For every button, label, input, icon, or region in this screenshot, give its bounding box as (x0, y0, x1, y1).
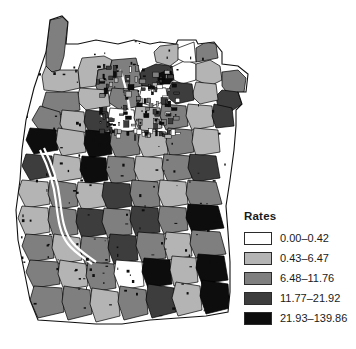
map-speck (94, 239, 96, 240)
map-region (142, 258, 172, 288)
map-speck (83, 278, 85, 279)
map-speck (140, 122, 142, 124)
legend-label: 21.93–139.86 (280, 312, 347, 325)
map-speck (47, 189, 48, 192)
map-speck (79, 278, 81, 280)
map-subregion (157, 101, 159, 106)
map-region (212, 104, 234, 128)
map-region (58, 260, 88, 290)
map-subregion (110, 124, 113, 126)
map-speck (60, 147, 63, 148)
map-speck (161, 133, 163, 134)
map-speck (56, 268, 58, 270)
legend-swatch (244, 312, 272, 325)
map-subregion (96, 80, 99, 84)
map-region (154, 44, 178, 66)
map-speck (23, 262, 25, 263)
map-speck (177, 69, 179, 71)
map-speck (202, 283, 204, 285)
map-speck (135, 41, 137, 42)
map-subregion (113, 65, 116, 71)
map-speck (121, 107, 122, 108)
map-speck (189, 255, 190, 257)
map-speck (73, 190, 76, 192)
map-subregion (157, 85, 163, 89)
map-subregion (119, 114, 123, 116)
map-speck (48, 256, 49, 258)
map-speck (181, 283, 184, 284)
map-speck (47, 245, 49, 247)
map-speck (117, 247, 119, 249)
map-subregion (123, 112, 127, 115)
map-speck (167, 57, 168, 59)
map-subregion (155, 119, 157, 121)
map-subregion (132, 124, 136, 126)
map-speck (105, 240, 106, 241)
map-speck (129, 82, 130, 84)
map-speck (53, 72, 56, 75)
map-speck (117, 71, 119, 73)
map-region (42, 66, 80, 92)
map-speck (69, 202, 70, 203)
map-subregion (126, 116, 132, 120)
map-subregion (172, 108, 178, 111)
map-subregion (134, 135, 136, 141)
map-subregion (160, 122, 164, 124)
legend-label: 0.43–6.47 (280, 252, 329, 265)
map-speck (113, 124, 116, 126)
map-speck (218, 214, 220, 216)
map-speck (117, 254, 118, 257)
map-speck (156, 169, 159, 171)
map-speck (109, 304, 112, 305)
map-subregion (167, 89, 171, 92)
map-region (130, 206, 160, 236)
map-region (134, 156, 164, 184)
map-speck (142, 262, 144, 263)
map-subregion (153, 109, 156, 114)
map-speck (209, 261, 210, 264)
map-speck (133, 64, 136, 66)
map-region (86, 262, 116, 292)
map-speck (174, 223, 177, 224)
map-speck (75, 70, 77, 73)
map-subregion (129, 67, 131, 73)
map-speck (168, 114, 171, 116)
map-speck (145, 205, 146, 208)
map-subregion (102, 108, 107, 112)
map-speck (131, 62, 133, 65)
map-subregion (170, 71, 172, 73)
map-speck (214, 221, 217, 222)
map-region (172, 282, 202, 316)
map-speck (76, 243, 78, 245)
map-speck (84, 167, 85, 169)
map-speck (106, 266, 109, 267)
map-subregion (118, 122, 120, 125)
map-speck (22, 219, 25, 222)
map-subregion (126, 78, 129, 80)
map-region (170, 256, 198, 286)
map-region (192, 128, 220, 156)
map-speck (141, 110, 142, 111)
map-region (158, 206, 188, 234)
map-speck (124, 290, 127, 292)
map-speck (172, 307, 175, 309)
map-speck (212, 110, 214, 113)
map-region (200, 280, 230, 314)
map-region (102, 208, 132, 238)
map-subregion (171, 129, 175, 135)
map-subregion (166, 100, 168, 104)
map-subregion (100, 94, 105, 98)
map-subregion (156, 130, 158, 136)
map-speck (165, 249, 167, 250)
map-subregion (137, 103, 142, 107)
legend-label: 6.48–11.76 (280, 272, 334, 285)
map-speck (185, 249, 187, 252)
map-speck (46, 173, 48, 176)
map-subregion (124, 121, 129, 128)
map-speck (190, 57, 191, 60)
map-subregion (151, 92, 153, 95)
map-speck (163, 170, 165, 171)
map-speck (90, 268, 92, 271)
map-speck (166, 159, 168, 160)
legend-rows: 0.00–0.420.43–6.476.48–11.7611.77–21.922… (240, 228, 352, 328)
